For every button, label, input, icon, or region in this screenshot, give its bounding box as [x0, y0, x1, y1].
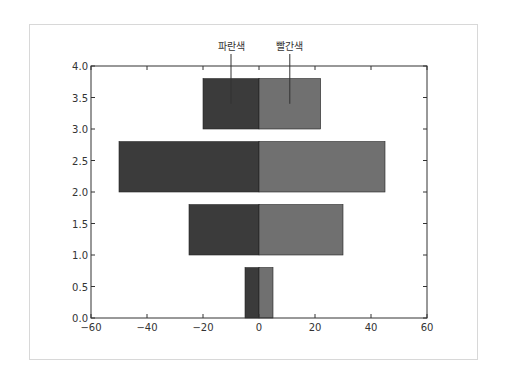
y-tick-label: 2.5: [72, 156, 88, 167]
bar-right: [259, 268, 273, 318]
y-tick-label: 0.5: [72, 282, 88, 293]
y-tick-label: 0.0: [72, 313, 88, 324]
x-tick-label: 20: [309, 322, 322, 333]
y-tick-label: 1.0: [72, 250, 88, 261]
y-tick-label: 4.0: [72, 61, 88, 72]
annotation-label: 빨간색: [276, 41, 303, 52]
horizontal-bar-chart: −60−40−2002040600.00.51.01.52.02.53.03.5…: [0, 0, 507, 384]
bar-left: [189, 205, 259, 255]
x-tick-label: 60: [421, 322, 434, 333]
bar-right: [259, 205, 343, 255]
x-tick-label: −20: [192, 322, 213, 333]
y-tick-label: 2.0: [72, 187, 88, 198]
x-tick-label: −40: [136, 322, 157, 333]
bar-left: [119, 142, 259, 192]
y-tick-label: 3.5: [72, 93, 88, 104]
bar-right: [259, 142, 385, 192]
bars: [119, 79, 385, 318]
x-tick-label: 40: [365, 322, 378, 333]
y-tick-label: 1.5: [72, 219, 88, 230]
y-tick-label: 3.0: [72, 124, 88, 135]
annotation-label: 파란색: [218, 41, 245, 52]
bar-left: [245, 268, 259, 318]
x-tick-label: 0: [256, 322, 262, 333]
